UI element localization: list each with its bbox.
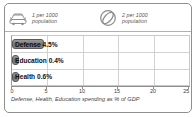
bar-label-education: Education 0.4% <box>15 55 64 66</box>
legend-label-cars: 1 per 1000 population <box>32 12 58 24</box>
chart-caption: Defense, Health, Education spending as %… <box>11 96 190 102</box>
legend-label-balls: 2 per 1000 population <box>122 12 148 24</box>
x-axis-tick-label: 25 <box>183 88 189 94</box>
legend-divider <box>5 31 191 32</box>
plot-area: Defense 4.5%Education 0.4%Health 0.6% <box>11 35 190 86</box>
x-axis-line <box>11 86 190 87</box>
legend: 1 per 1000 population 2 per 1000 populat… <box>5 4 191 32</box>
bar-label-health: Health 0.6% <box>15 71 52 82</box>
bar-row: Health 0.6% <box>12 69 189 85</box>
bar-chart: Defense 4.5%Education 0.4%Health 0.6% <box>6 34 190 86</box>
bar-label-defense: Defense 4.5% <box>15 39 58 50</box>
gridline-vertical <box>189 36 190 85</box>
x-axis-tick-label: 5 <box>45 88 48 94</box>
bar-row: Defense 4.5% <box>12 36 189 52</box>
x-axis-tick-label: 15 <box>114 88 120 94</box>
legend-item-cars: 1 per 1000 population <box>8 9 94 27</box>
car-icon <box>8 9 28 27</box>
ball-circle-icon <box>98 9 118 27</box>
legend-item-balls: 2 per 1000 population <box>98 9 148 27</box>
x-axis: 0510152025 <box>6 86 190 95</box>
bar-row: Education 0.4% <box>12 52 189 68</box>
x-axis-tick-label: 20 <box>150 88 156 94</box>
x-axis-tick-label: 10 <box>79 88 85 94</box>
infographic-card: 1 per 1000 population 2 per 1000 populat… <box>0 0 196 117</box>
x-axis-tick-label: 0 <box>10 88 13 94</box>
